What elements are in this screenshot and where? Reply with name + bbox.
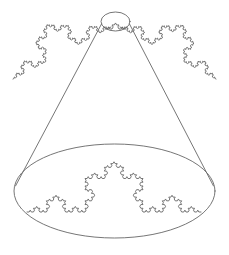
fractal-cone-figure xyxy=(0,0,229,255)
apex-ellipse xyxy=(101,12,130,31)
cone-right-side-line xyxy=(130,24,214,186)
koch-apex xyxy=(105,23,126,29)
koch-curve-group xyxy=(13,23,216,212)
cone-left-side-line xyxy=(16,24,102,186)
base-ellipse xyxy=(14,144,215,238)
koch-base xyxy=(27,162,201,212)
fractal-cone-svg xyxy=(0,0,229,255)
